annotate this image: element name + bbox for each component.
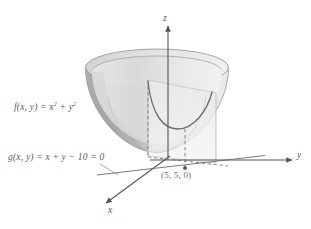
constraint-plane	[148, 80, 216, 163]
axis-label-y: y	[297, 150, 301, 160]
label-point-5-5-0: (5, 5, 0)	[161, 170, 191, 180]
axis-label-z: z	[163, 13, 167, 23]
label-function: f(x, y) = x2 + y2	[14, 101, 76, 112]
constrained-optimization-figure	[0, 0, 311, 229]
axis-label-x: x	[108, 205, 112, 215]
label-constraint: g(x, y) = x + y − 10 = 0	[8, 152, 104, 162]
